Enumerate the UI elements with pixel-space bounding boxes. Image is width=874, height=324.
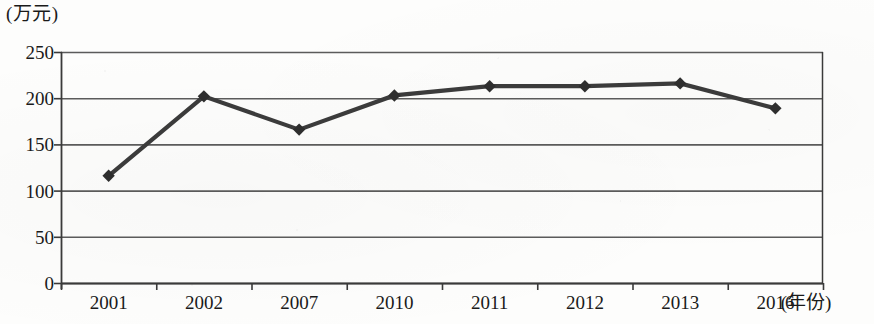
x-axis-tick-labels: (年份) 20012002200720102011201220132016 [0,0,874,324]
x-axis-tick-label: 2007 [280,292,318,314]
x-axis-tick-label: 2002 [185,292,223,314]
x-axis-tick-label: 2012 [566,292,604,314]
x-axis-tick-label: 2013 [661,292,699,314]
x-axis-tick-label: 2010 [375,292,413,314]
x-axis-tick-label: 2001 [90,292,128,314]
x-axis-tick-label: 2011 [471,292,508,314]
x-axis-tick-label: 2016 [756,292,794,314]
line-chart: (万元) 050100150200250 (年份) 20012002200720… [0,0,874,324]
